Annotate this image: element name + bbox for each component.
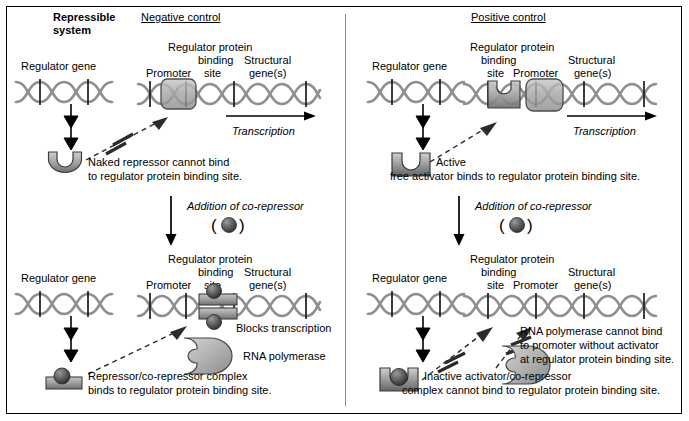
neg-corepressor-symbol: ( ) (208, 214, 250, 236)
neg-addition-label: Addition of co-repressor (187, 200, 304, 212)
neg-top-caption-line2: to regulator protein binding site. (88, 170, 242, 182)
neg-bottom-label-binding: binding (198, 266, 233, 278)
pos-top-bound-activator (486, 79, 522, 111)
pos-bottom-label-structural: Structural (568, 266, 615, 278)
neg-blocks-transcription-label: Blocks transcription (236, 322, 331, 334)
panel-heading-positive: Positive control (471, 11, 546, 23)
pos-bottom-label-genes: gene(s) (574, 279, 611, 291)
neg-top-rna-polymerase-box (159, 76, 199, 112)
neg-top-transcription-arrow (226, 110, 318, 122)
svg-text:(: ( (499, 216, 505, 235)
neg-top-label-site: site (204, 67, 221, 79)
neg-bottom-label-genes: gene(s) (249, 279, 286, 291)
neg-top-label-regulator-protein: Regulator protein (168, 41, 252, 53)
pos-addition-label: Addition of co-repressor (475, 200, 592, 212)
pos-top-label-regulator-protein: Regulator protein (470, 41, 554, 53)
pos-bottom-label-regulator-protein: Regulator protein (470, 253, 554, 265)
pos-top-label-structural: Structural (568, 54, 615, 66)
pos-bottom-operon-dna (462, 292, 662, 320)
pos-top-caption-line2: free activator binds to regulator protei… (390, 170, 640, 182)
neg-bottom-label-structural: Structural (244, 266, 291, 278)
pos-bottom-label-binding: binding (481, 266, 516, 278)
system-title-line2: system (53, 24, 91, 36)
neg-bottom-expression-arrows (60, 316, 82, 364)
neg-rna-polymerase-label: RNA polymerase (243, 350, 326, 362)
panel-divider (345, 14, 346, 406)
neg-top-expression-arrows (60, 104, 82, 152)
neg-bottom-caption-line2: binds to regulator protein binding site. (88, 384, 271, 396)
neg-top-label-structural: Structural (244, 54, 291, 66)
neg-bottom-regulator-gene-dna (14, 290, 122, 318)
neg-free-repressor-corepressor (44, 366, 84, 392)
pos-corepressor-symbol: ( ) (496, 214, 538, 236)
neg-bottom-label-promoter: Promoter (146, 279, 191, 291)
svg-text:(: ( (211, 216, 217, 235)
pos-bottom-label-site: site (487, 279, 504, 291)
system-title-line1: Repressible (53, 11, 115, 23)
neg-addition-arrow (164, 196, 178, 248)
neg-bottom-label-regulator-protein: Regulator protein (168, 253, 252, 265)
pos-top-label-genes: gene(s) (574, 67, 611, 79)
neg-top-regulator-gene-label: Regulator gene (21, 60, 96, 72)
pos-bottom-regulator-gene-dna (366, 290, 474, 318)
pos-top-transcription-arrow (567, 110, 659, 122)
pos-bottom-label-promoter: Promoter (513, 279, 558, 291)
pos-top-label-site: site (487, 67, 504, 79)
neg-naked-repressor-shape (47, 150, 83, 174)
pos-bottom-regulator-gene-label: Regulator gene (372, 272, 447, 284)
svg-text:): ) (527, 216, 533, 235)
pos-bottom-caption-line1: Inactive activator/co-repressor (424, 370, 571, 382)
pos-top-caption-line1: Active (436, 156, 466, 168)
neg-bottom-caption-line1: Repressor/co-repressor complex (88, 370, 248, 382)
neg-top-caption-line1: Naked repressor cannot bind (88, 156, 229, 168)
svg-text:): ) (239, 216, 245, 235)
neg-top-transcription-label: Transcription (232, 125, 295, 137)
neg-top-label-genes: gene(s) (249, 67, 286, 79)
neg-bottom-binds-arrow (86, 324, 190, 376)
pos-addition-arrow (452, 196, 466, 248)
neg-top-label-binding: binding (198, 54, 233, 66)
pos-top-rna-polymerase-box (524, 76, 566, 114)
pos-top-regulator-gene-dna (366, 78, 474, 106)
pos-polymerase-caption-line3: at regulator protein binding site. (520, 353, 674, 365)
pos-top-label-binding: binding (481, 54, 516, 66)
figure-repressible-system: Repressible system Negative control Posi… (0, 0, 689, 421)
pos-polymerase-caption-line1: RNA polymerase cannot bind (520, 325, 662, 337)
panel-heading-negative: Negative control (141, 11, 221, 23)
neg-top-regulator-gene-dna (14, 78, 122, 106)
pos-bottom-caption-line2: complex cannot bind to regulator protein… (402, 384, 660, 396)
pos-top-regulator-gene-label: Regulator gene (372, 60, 447, 72)
pos-polymerase-caption-line2: to promoter without activator (520, 339, 659, 351)
neg-bottom-regulator-gene-label: Regulator gene (21, 272, 96, 284)
pos-top-transcription-label: Transcription (573, 125, 636, 137)
